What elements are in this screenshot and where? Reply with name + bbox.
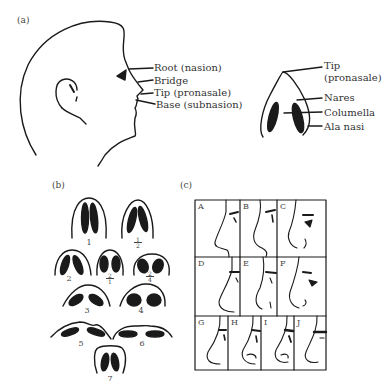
nostril-type-label: 4 [136, 307, 146, 315]
profile-cell-label: G [198, 319, 204, 327]
profile-sketches [207, 200, 326, 364]
leader-nares [297, 98, 322, 100]
nostril-type-label: 5 [76, 340, 86, 348]
label-tip-pronasale: Tip (pronasale) [154, 88, 231, 98]
nostril-type-label: 1 [84, 239, 94, 247]
fraction-denominator: 2 [134, 243, 142, 248]
head-profile-illustration [20, 21, 143, 166]
profile-cell-label: E [243, 260, 249, 268]
label-pronasale-base-view: (pronasale) [324, 73, 382, 83]
label-bridge: Bridge [154, 76, 188, 86]
leader-tip [141, 93, 153, 94]
nostril-type-fraction: 2 1 [106, 273, 114, 285]
nostril-types-chart [51, 198, 172, 373]
nostril-type-label: 7 [105, 375, 115, 383]
fraction-denominator: 4 [146, 277, 154, 282]
leader-columella [284, 112, 322, 113]
nostril-type-fraction: 2 4 [146, 271, 154, 283]
leader-root [129, 68, 153, 69]
profile-cell-label: C [280, 203, 286, 211]
label-ala-nasi: Ala nasi [324, 122, 364, 132]
profile-cell-label: A [198, 203, 204, 211]
panel-label-a: (a) [17, 16, 29, 25]
profile-cell-label: J [297, 319, 300, 327]
leader-bridge [138, 80, 153, 82]
label-tip-base-view: Tip [324, 61, 340, 71]
nostril-type-fraction: 1 2 [134, 237, 142, 249]
label-nares: Nares [324, 93, 355, 103]
profile-cell-label: I [264, 319, 267, 327]
label-root-nasion: Root (nasion) [154, 63, 222, 73]
profile-cell-label: B [243, 203, 249, 211]
leader-base [136, 100, 155, 104]
nose-base-view [261, 72, 310, 137]
label-base-subnasion: Base (subnasion) [156, 100, 243, 110]
profile-cell-label: D [198, 260, 204, 268]
nostril-type-label: 6 [137, 340, 147, 348]
profile-cell-label: F [280, 260, 286, 268]
panel-label-c: (c) [180, 181, 192, 190]
panel-label-b: (b) [52, 181, 65, 190]
profile-cell-label: H [231, 319, 238, 327]
nostril-type-label: 3 [82, 307, 92, 315]
label-columella: Columella [324, 108, 375, 118]
figure-drawing [0, 0, 385, 389]
leader-tip-base [283, 67, 322, 72]
fraction-denominator: 1 [106, 279, 114, 284]
nostril-type-label: 2 [64, 275, 74, 283]
